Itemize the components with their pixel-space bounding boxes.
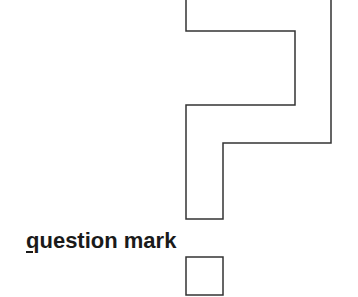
question-mark-hook-outline <box>186 0 331 219</box>
question-mark-dot-box <box>186 257 223 295</box>
question-mark-label: question mark <box>26 228 176 254</box>
label-rest: uestion mark <box>39 228 176 253</box>
label-mnemonic: q <box>26 228 39 253</box>
